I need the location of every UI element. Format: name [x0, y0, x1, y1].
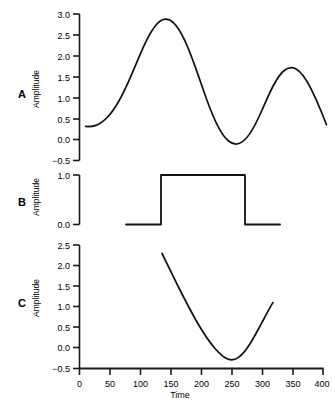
panel-b-y-ticks: [73, 175, 80, 225]
y-axis-label-b: Amplitude: [31, 167, 41, 227]
panel-b-gate-pulse: [126, 175, 280, 225]
svg-text:−0.5: −0.5: [52, 364, 70, 374]
svg-text:200: 200: [194, 379, 209, 389]
panel-c-curve: [162, 254, 273, 360]
svg-text:1.0: 1.0: [57, 94, 70, 104]
panel-c-y-tick-labels: 2.5 2.0 1.5 1.0 0.5 0.0 −0.5: [52, 241, 70, 375]
svg-text:0.0: 0.0: [57, 220, 70, 230]
panel-a-y-tick-labels: 3.0 2.5 2.0 1.5 1.0 0.5 0.0 −0.5: [52, 10, 70, 167]
svg-text:−0.5: −0.5: [52, 156, 70, 166]
svg-text:2.5: 2.5: [57, 241, 70, 251]
panel-c-y-ticks: [73, 245, 80, 369]
panel-b: 1.0 0.0: [57, 171, 280, 231]
panel-a: 3.0 2.5 2.0 1.5 1.0 0.5 0.0 −0.5: [52, 10, 326, 167]
svg-text:0.5: 0.5: [57, 323, 70, 333]
svg-text:2.0: 2.0: [57, 52, 70, 62]
svg-text:350: 350: [285, 379, 300, 389]
svg-text:0.5: 0.5: [57, 115, 70, 125]
panel-a-waveform: [86, 19, 327, 144]
panel-c: 2.5 2.0 1.5 1.0 0.5 0.0 −0.5: [52, 241, 273, 375]
svg-text:0.0: 0.0: [57, 343, 70, 353]
svg-text:0.0: 0.0: [57, 135, 70, 145]
svg-text:1.5: 1.5: [57, 282, 70, 292]
y-axis-label-a: Amplitude: [31, 59, 41, 119]
svg-text:0: 0: [77, 379, 82, 389]
svg-text:3.0: 3.0: [57, 10, 70, 20]
svg-text:1.5: 1.5: [57, 73, 70, 83]
panel-a-y-ticks: [73, 14, 80, 161]
x-axis: 0 50 100 150 200 250 300 350 400: [77, 369, 330, 390]
svg-text:2.5: 2.5: [57, 31, 70, 41]
multi-panel-figure: A B C Amplitude Amplitude Amplitude Time: [0, 0, 335, 416]
svg-text:1.0: 1.0: [57, 171, 70, 181]
svg-text:50: 50: [105, 379, 115, 389]
svg-text:400: 400: [314, 379, 329, 389]
svg-text:300: 300: [255, 379, 270, 389]
svg-text:1.0: 1.0: [57, 302, 70, 312]
panel-letter-b: B: [18, 196, 26, 208]
svg-text:250: 250: [224, 379, 239, 389]
plot-canvas: 3.0 2.5 2.0 1.5 1.0 0.5 0.0 −0.5 1.0 0: [0, 0, 335, 416]
svg-text:2.0: 2.0: [57, 261, 70, 271]
x-axis-label: Time: [150, 390, 210, 400]
y-axis-label-c: Amplitude: [31, 268, 41, 328]
panel-b-y-tick-labels: 1.0 0.0: [57, 171, 70, 231]
svg-text:100: 100: [133, 379, 148, 389]
x-axis-tick-labels: 0 50 100 150 200 250 300 350 400: [77, 379, 330, 389]
svg-text:150: 150: [163, 379, 178, 389]
panel-letter-a: A: [18, 88, 26, 100]
x-axis-ticks: [80, 369, 324, 376]
panel-letter-c: C: [18, 297, 26, 309]
